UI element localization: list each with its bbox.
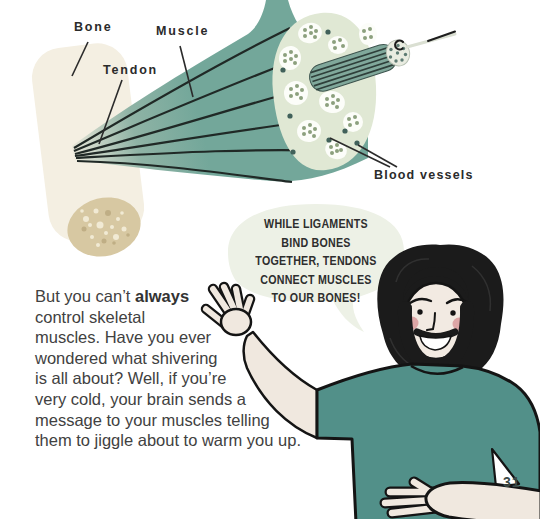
paragraph-line: muscles. Have you ever bbox=[35, 327, 301, 348]
paragraph-line: control skeletal bbox=[35, 307, 301, 328]
paragraph-line: wondered what shivering bbox=[35, 348, 301, 369]
bubble-line: TOGETHER, TENDONS bbox=[244, 252, 388, 271]
paragraph-line: very cold, your brain sends a bbox=[35, 389, 301, 410]
body-paragraph: But you can’t always control skeletal mu… bbox=[35, 286, 301, 451]
bubble-line: BIND BONES bbox=[244, 234, 388, 253]
book-page: Bone Muscle Tendon Blood vessels WHILE L… bbox=[0, 0, 540, 519]
lower-forearm bbox=[426, 483, 540, 519]
paragraph-line: But you can’t always bbox=[35, 286, 301, 307]
muscle-label: Muscle bbox=[156, 24, 209, 38]
tendon-label: Tendon bbox=[103, 63, 158, 77]
left-eye bbox=[417, 309, 422, 314]
paragraph-line: them to jiggle about to warm you up. bbox=[35, 430, 301, 451]
paragraph-line: message to your muscles telling bbox=[35, 410, 301, 431]
bone-label: Bone bbox=[74, 20, 112, 34]
blood-vessels-label: Blood vessels bbox=[374, 168, 474, 182]
bubble-line: WHILE LIGAMENTS bbox=[244, 215, 388, 234]
page-number: 31 bbox=[503, 474, 521, 490]
paragraph-text: But you can’t bbox=[35, 287, 135, 305]
right-eye bbox=[450, 310, 455, 315]
paragraph-line: is all about? Well, if you’re bbox=[35, 368, 301, 389]
paragraph-bold-text: always bbox=[135, 287, 189, 305]
